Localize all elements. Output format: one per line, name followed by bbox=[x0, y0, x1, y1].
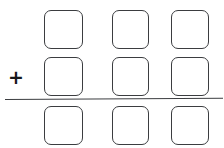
digit-box-addend1-ones[interactable] bbox=[171, 10, 209, 49]
digit-box-addend1-hundreds[interactable] bbox=[44, 10, 83, 49]
digit-box-addend2-tens[interactable] bbox=[112, 57, 149, 96]
digit-box-sum-tens[interactable] bbox=[112, 106, 149, 145]
answer-rule-line bbox=[5, 98, 223, 100]
digit-box-addend1-tens[interactable] bbox=[112, 10, 149, 49]
digit-box-sum-hundreds[interactable] bbox=[44, 106, 83, 145]
plus-operator-icon: + bbox=[6, 66, 26, 88]
addition-worksheet: + bbox=[0, 0, 224, 148]
digit-box-addend2-hundreds[interactable] bbox=[44, 57, 83, 96]
digit-box-addend2-ones[interactable] bbox=[171, 57, 209, 96]
digit-box-sum-ones[interactable] bbox=[171, 106, 209, 145]
